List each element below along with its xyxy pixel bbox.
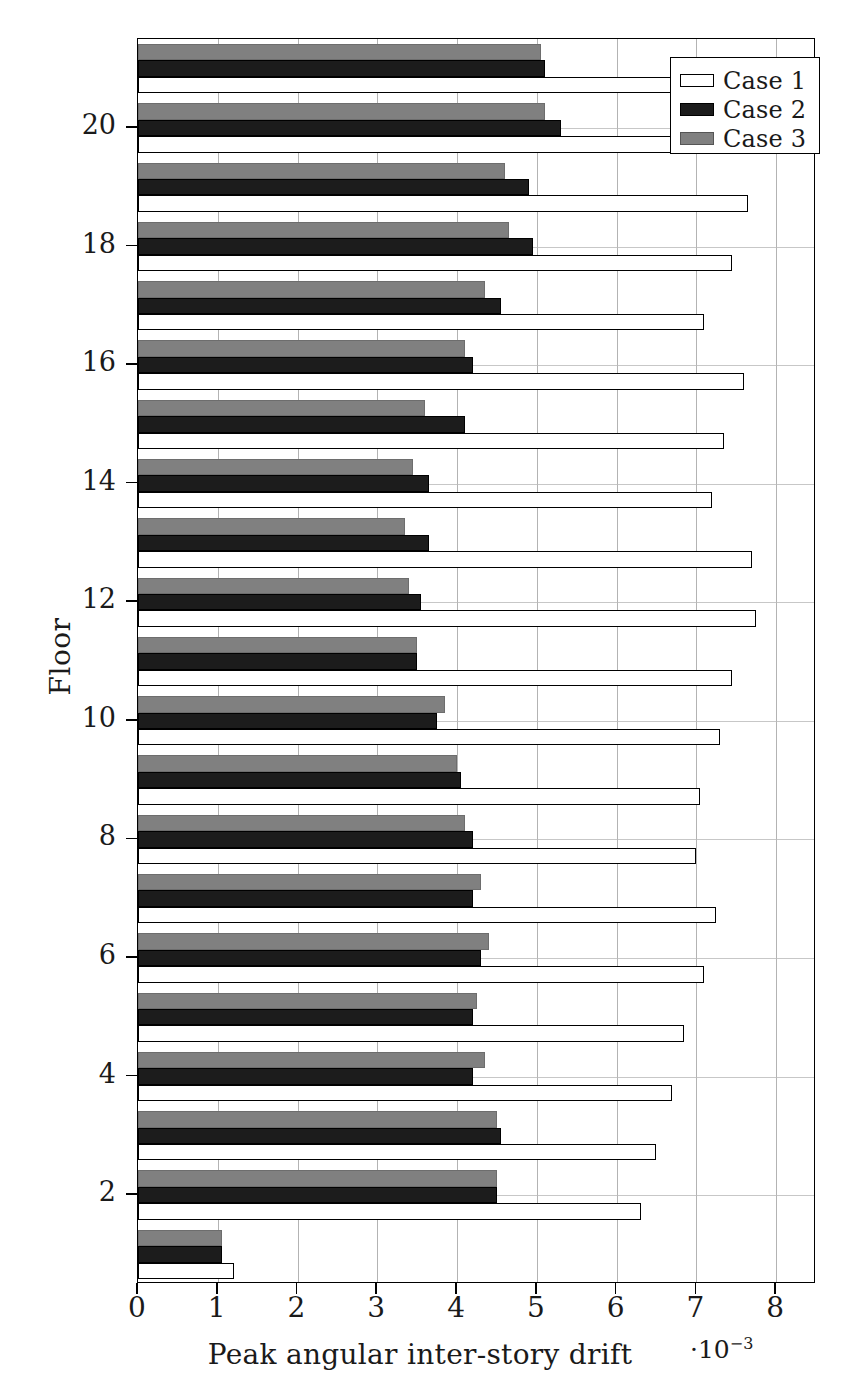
bar-case-1-floor-17[interactable]: [138, 314, 704, 330]
bar-case-1-floor-12[interactable]: [138, 610, 756, 626]
bar-case-2-floor-13[interactable]: [138, 535, 429, 551]
bar-case-2-floor-15[interactable]: [138, 416, 465, 432]
bar-case-2-floor-10[interactable]: [138, 713, 437, 729]
bar-case-3-floor-4[interactable]: [138, 1052, 485, 1068]
y-tick-label: 12: [56, 585, 116, 612]
bar-case-3-floor-17[interactable]: [138, 281, 485, 297]
y-tick-mark: [126, 1193, 137, 1195]
bar-case-2-floor-9[interactable]: [138, 772, 461, 788]
bar-case-3-floor-12[interactable]: [138, 578, 409, 594]
bar-group-floor-8: [138, 815, 814, 864]
y-tick-mark: [126, 719, 137, 721]
bar-case-1-floor-20[interactable]: [138, 136, 696, 152]
bar-case-2-floor-1[interactable]: [138, 1246, 222, 1262]
bar-case-3-floor-18[interactable]: [138, 222, 509, 238]
bar-case-1-floor-10[interactable]: [138, 729, 720, 745]
bar-case-3-floor-11[interactable]: [138, 637, 417, 653]
y-tick-mark: [126, 482, 137, 484]
bar-case-3-floor-14[interactable]: [138, 459, 413, 475]
y-tick-label: 20: [56, 111, 116, 138]
bar-case-2-floor-7[interactable]: [138, 890, 473, 906]
bar-case-2-floor-16[interactable]: [138, 357, 473, 373]
plot-area: [137, 38, 815, 1283]
bar-case-1-floor-9[interactable]: [138, 788, 700, 804]
bar-case-1-floor-15[interactable]: [138, 433, 724, 449]
y-tick-label: 8: [56, 822, 116, 849]
case-3-swatch-icon: [680, 132, 714, 145]
bar-case-1-floor-4[interactable]: [138, 1085, 672, 1101]
bar-case-2-floor-8[interactable]: [138, 831, 473, 847]
bar-case-3-floor-3[interactable]: [138, 1111, 497, 1127]
bar-case-1-floor-8[interactable]: [138, 848, 696, 864]
bar-case-2-floor-14[interactable]: [138, 475, 429, 491]
bar-case-1-floor-1[interactable]: [138, 1263, 234, 1279]
y-tick-mark: [126, 600, 137, 602]
bar-case-2-floor-2[interactable]: [138, 1187, 497, 1203]
x-tick-label: 8: [750, 1294, 800, 1322]
bar-case-1-floor-13[interactable]: [138, 551, 752, 567]
bar-case-2-floor-17[interactable]: [138, 298, 501, 314]
x-tick-label: 3: [351, 1294, 401, 1322]
bar-case-3-floor-16[interactable]: [138, 340, 465, 356]
legend-item-case-2[interactable]: Case 2: [680, 95, 819, 124]
bar-case-3-floor-2[interactable]: [138, 1170, 497, 1186]
bar-case-2-floor-20[interactable]: [138, 120, 561, 136]
bar-case-1-floor-19[interactable]: [138, 195, 748, 211]
legend-label-case-2: Case 2: [723, 98, 806, 122]
y-tick-label: 10: [56, 704, 116, 731]
bar-case-1-floor-6[interactable]: [138, 966, 704, 982]
legend-item-case-3[interactable]: Case 3: [680, 124, 819, 153]
bar-group-floor-16: [138, 340, 814, 389]
bar-case-3-floor-20[interactable]: [138, 103, 545, 119]
y-tick-mark: [126, 956, 137, 958]
bar-group-floor-2: [138, 1170, 814, 1219]
bar-case-3-floor-6[interactable]: [138, 933, 489, 949]
bars-layer: [138, 39, 814, 1282]
bar-case-1-floor-7[interactable]: [138, 907, 716, 923]
bar-group-floor-15: [138, 400, 814, 449]
bar-case-2-floor-21[interactable]: [138, 60, 545, 76]
bar-case-2-floor-18[interactable]: [138, 238, 533, 254]
bar-case-3-floor-19[interactable]: [138, 163, 505, 179]
y-tick-label: 2: [56, 1178, 116, 1205]
bar-case-2-floor-11[interactable]: [138, 653, 417, 669]
bar-case-3-floor-10[interactable]: [138, 696, 445, 712]
y-tick-mark: [126, 838, 137, 840]
bar-case-3-floor-21[interactable]: [138, 44, 541, 60]
y-tick-label: 6: [56, 941, 116, 968]
y-tick-label: 16: [56, 348, 116, 375]
bar-case-1-floor-11[interactable]: [138, 670, 732, 686]
legend-item-case-1[interactable]: Case 1: [680, 66, 819, 95]
bar-case-1-floor-3[interactable]: [138, 1144, 656, 1160]
bar-case-1-floor-2[interactable]: [138, 1203, 641, 1219]
bar-case-3-floor-5[interactable]: [138, 993, 477, 1009]
bar-case-1-floor-5[interactable]: [138, 1025, 684, 1041]
bar-case-1-floor-18[interactable]: [138, 255, 732, 271]
bar-group-floor-9: [138, 755, 814, 804]
bar-group-floor-7: [138, 874, 814, 923]
y-tick-label: 4: [56, 1060, 116, 1087]
bar-case-1-floor-21[interactable]: [138, 77, 688, 93]
bar-case-3-floor-15[interactable]: [138, 400, 425, 416]
bar-case-1-floor-16[interactable]: [138, 373, 744, 389]
x-tick-label: 7: [670, 1294, 720, 1322]
bar-case-2-floor-5[interactable]: [138, 1009, 473, 1025]
bar-group-floor-18: [138, 222, 814, 271]
bar-case-1-floor-14[interactable]: [138, 492, 712, 508]
bar-case-3-floor-1[interactable]: [138, 1230, 222, 1246]
bar-case-3-floor-9[interactable]: [138, 755, 457, 771]
legend-label-case-1: Case 1: [723, 69, 806, 93]
legend-box: Case 1 Case 2 Case 3: [670, 57, 820, 154]
bar-case-3-floor-7[interactable]: [138, 874, 481, 890]
y-tick-mark: [126, 363, 137, 365]
bar-case-2-floor-4[interactable]: [138, 1068, 473, 1084]
bar-group-floor-11: [138, 637, 814, 686]
bar-case-3-floor-13[interactable]: [138, 518, 405, 534]
x-axis-multiplier-base: ·10: [690, 1335, 730, 1364]
bar-case-2-floor-12[interactable]: [138, 594, 421, 610]
bar-case-3-floor-8[interactable]: [138, 815, 465, 831]
bar-case-2-floor-19[interactable]: [138, 179, 529, 195]
bar-case-2-floor-6[interactable]: [138, 950, 481, 966]
x-tick-label: 6: [591, 1294, 641, 1322]
bar-case-2-floor-3[interactable]: [138, 1128, 501, 1144]
